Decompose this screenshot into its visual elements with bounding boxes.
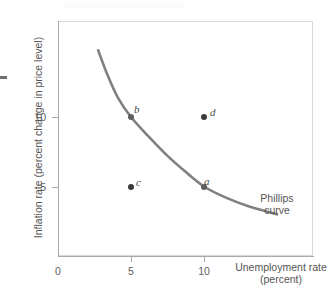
curve-label-line2: curve <box>250 204 304 216</box>
phillips-curve-line <box>0 0 336 300</box>
data-point-d <box>201 114 207 120</box>
data-point-c <box>128 184 134 190</box>
data-point-label-b: b <box>134 104 140 115</box>
data-point-label-d: d <box>210 107 216 118</box>
data-point-label-c: c <box>136 177 141 188</box>
phillips-curve-figure: 510 0510 Inflation rate (percent change … <box>0 0 336 300</box>
data-point-label-a: a <box>204 176 210 187</box>
curve-label-line1: Phillips <box>260 192 293 204</box>
phillips-curve-label: Phillips curve <box>250 192 304 216</box>
